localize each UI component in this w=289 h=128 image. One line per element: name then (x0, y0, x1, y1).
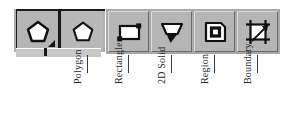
callout-label-rectangle: Rectangle (113, 42, 124, 84)
toolbar-button-region[interactable] (194, 11, 235, 52)
callout-label-boundary: Boundary (242, 43, 253, 84)
region-icon (195, 12, 234, 51)
flyout-divider-foot (44, 48, 47, 56)
polygon-flyout-group[interactable] (14, 9, 105, 52)
flyout-arrow-icon (48, 40, 55, 47)
leader-line-polygon (87, 55, 88, 73)
flyout-drop-shadow (16, 48, 101, 57)
leader-line-boundary (257, 55, 258, 73)
callout-label-region: Region (199, 54, 210, 84)
callout-label-2dsolid: 2D Solid (156, 47, 167, 84)
leader-line-2dsolid (171, 55, 172, 73)
callout-label-polygon: Polygon (72, 49, 83, 84)
pentagon-polygon-icon (62, 11, 103, 50)
toolbar-button-polygon-active[interactable] (17, 11, 58, 50)
leader-line-region (214, 55, 215, 73)
2d-solid-icon (152, 12, 191, 51)
toolbar-button-polygon-alt[interactable] (62, 11, 103, 50)
leader-line-rectangle (128, 55, 129, 73)
draw-toolbar (106, 9, 280, 54)
